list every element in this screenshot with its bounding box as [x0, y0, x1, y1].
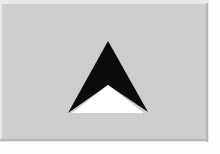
- up-arrow-icon: [0, 0, 220, 154]
- image-canvas: up arrow glyph: [0, 0, 220, 154]
